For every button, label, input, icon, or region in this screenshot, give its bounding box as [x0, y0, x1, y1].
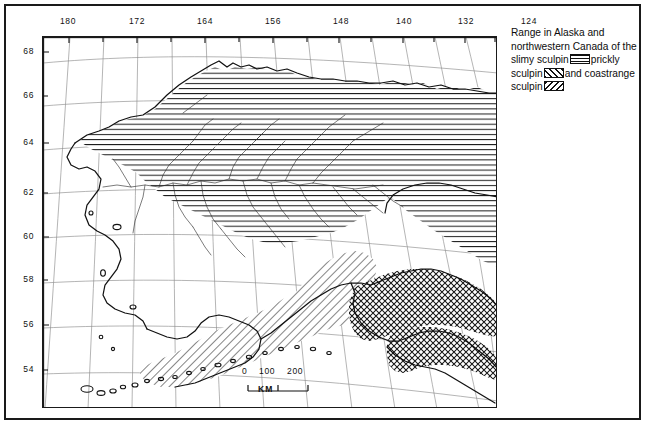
map-graphic [43, 37, 497, 408]
map-legend: Range in Alaska and northwestern Canada … [511, 26, 643, 94]
lon-label-164: 164 [197, 17, 213, 26]
lat-label-66: 66 [14, 91, 34, 100]
lon-label-148: 148 [333, 17, 349, 26]
legend-swatch-slimy-sculpin [570, 54, 590, 64]
legend-swatch-coastrange-sculpin [544, 81, 564, 91]
lon-label-180: 180 [60, 17, 76, 26]
map-panel: 180 172 164 156 148 140 132 124 68 66 64… [14, 14, 494, 408]
map-neatline [42, 36, 497, 408]
lat-label-60: 60 [14, 232, 34, 241]
legend-swatch-prickly-sculpin [544, 68, 564, 78]
lon-label-172: 172 [129, 17, 145, 26]
lat-label-58: 58 [14, 275, 34, 284]
figure-root: 180 172 164 156 148 140 132 124 68 66 64… [0, 0, 647, 426]
lat-label-68: 68 [14, 47, 34, 56]
lat-label-54: 54 [14, 365, 34, 374]
legend-caption: Range in Alaska and northwestern Canada … [511, 26, 643, 94]
lat-label-56: 56 [14, 320, 34, 329]
scale-tick-200: 200 [287, 367, 303, 376]
lon-label-156: 156 [265, 17, 281, 26]
lon-label-132: 132 [458, 17, 474, 26]
lat-label-62: 62 [14, 188, 34, 197]
scale-tick-100: 100 [259, 367, 275, 376]
lon-label-140: 140 [396, 17, 412, 26]
scale-tick-0: 0 [242, 367, 247, 376]
lat-label-64: 64 [14, 138, 34, 147]
scale-units-label: KM [258, 385, 274, 394]
lon-label-124: 124 [521, 17, 537, 26]
figure-outer-frame: 180 172 164 156 148 140 132 124 68 66 64… [4, 4, 641, 420]
